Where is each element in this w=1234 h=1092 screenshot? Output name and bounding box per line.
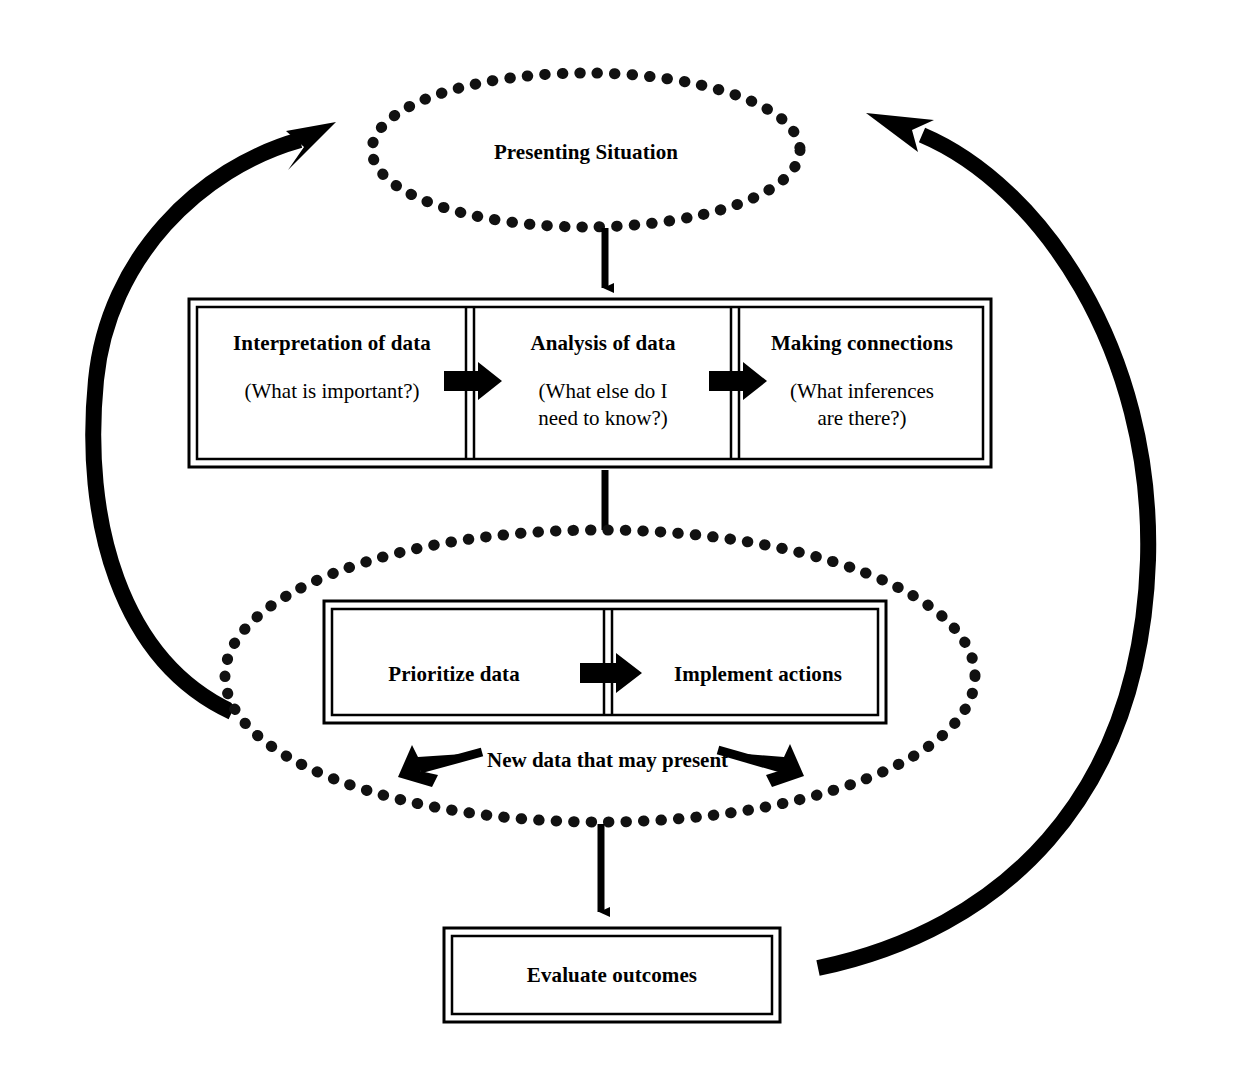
process-cell-connections: Making connections (What inferences are …: [742, 330, 982, 432]
implement-label: Implement actions: [636, 661, 880, 687]
analysis-heading: Analysis of data: [530, 330, 675, 356]
analysis-question-line2: need to know?): [538, 405, 667, 432]
process-cell-analysis: Analysis of data (What else do I need to…: [477, 330, 729, 432]
prioritize-label: Prioritize data: [334, 661, 574, 687]
connections-question-line1: (What inferences: [790, 378, 934, 405]
new-data-label: New data that may present: [487, 748, 728, 773]
presenting-situation-label: Presenting Situation: [376, 139, 796, 165]
connections-question-line2: are there?): [817, 405, 906, 432]
analysis-question-line1: (What else do I: [539, 378, 668, 405]
process-cell-interpretation: Interpretation of data (What is importan…: [199, 330, 465, 405]
clinical-reasoning-diagram: Presenting Situation Interpretation of d…: [0, 0, 1234, 1092]
interpretation-question: (What is important?): [245, 378, 420, 405]
connections-heading: Making connections: [771, 330, 953, 356]
interpretation-heading: Interpretation of data: [233, 330, 431, 356]
feedback-arrow-right: [818, 113, 1148, 968]
evaluate-label: Evaluate outcomes: [452, 962, 772, 988]
